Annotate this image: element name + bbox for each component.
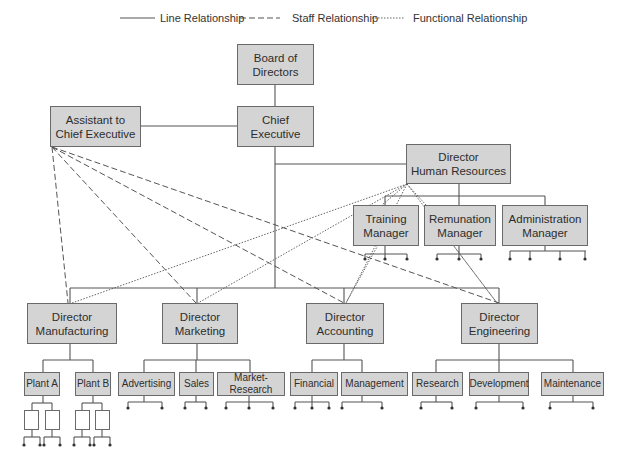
node-label: Executive [251, 127, 301, 141]
node-label: Human Resources [411, 164, 506, 178]
node-chief-executive: ChiefExecutive [237, 106, 314, 147]
node-plant-a: Plant A [24, 372, 60, 396]
node-label: Manager [363, 226, 408, 240]
node-label: Manager [509, 226, 582, 240]
node-label: Director [411, 150, 506, 164]
node-label: Director [36, 310, 109, 324]
node-label: Administration [509, 212, 582, 226]
node-label: Chief Executive [56, 127, 136, 141]
node-development: Development [469, 372, 529, 396]
node-label: Accounting [317, 324, 374, 338]
node-label: Directors [252, 65, 298, 79]
node-label: Director [317, 310, 374, 324]
legend-line-relationship: Line Relationship [160, 10, 244, 26]
legend-staff-relationship: Staff Relationship [292, 10, 378, 26]
node-label: Training [363, 212, 408, 226]
node-training-manager: TrainingManager [353, 205, 419, 246]
node-label: Marketing [175, 324, 226, 338]
node-label: Director [175, 310, 226, 324]
node-administration-manager: AdministrationManager [502, 205, 588, 246]
node-board-of-directors: Board ofDirectors [237, 44, 314, 85]
node-plant-a-sub-2 [45, 410, 60, 430]
node-director-engineering: DirectorEngineering [461, 303, 538, 344]
node-financial: Financial [290, 372, 338, 396]
node-sales: Sales [179, 372, 214, 396]
node-plant-b-sub-2 [95, 410, 110, 430]
node-advertising: Advertising [118, 372, 175, 396]
node-label: Manufacturing [36, 324, 109, 338]
node-plant-a-sub-1 [24, 410, 39, 430]
node-director-human-resources: DirectorHuman Resources [406, 144, 511, 184]
node-label: Remunation [429, 212, 491, 226]
legend-functional-relationship: Functional Relationship [413, 10, 527, 26]
node-label: Chief [251, 113, 301, 127]
node-research: Research [412, 372, 463, 396]
node-label: Engineering [469, 324, 530, 338]
node-label: Manager [429, 226, 491, 240]
node-market-research: Market-Research [217, 372, 285, 396]
node-management: Management [341, 372, 408, 396]
org-chart-diagram: Line Relationship Staff Relationship Fun… [0, 0, 628, 464]
node-director-marketing: DirectorMarketing [162, 303, 238, 344]
node-maintenance: Maintenance [541, 372, 604, 396]
node-label: Board of [252, 51, 298, 65]
node-plant-b: Plant B [75, 372, 111, 396]
node-remunation-manager: RemunationManager [424, 205, 496, 246]
node-director-manufacturing: DirectorManufacturing [27, 303, 117, 344]
node-label: Assistant to [56, 113, 136, 127]
node-plant-b-sub-1 [75, 410, 90, 430]
node-label: Director [469, 310, 530, 324]
node-director-accounting: DirectorAccounting [306, 303, 384, 344]
node-assistant-to-chief-executive: Assistant toChief Executive [50, 106, 141, 147]
